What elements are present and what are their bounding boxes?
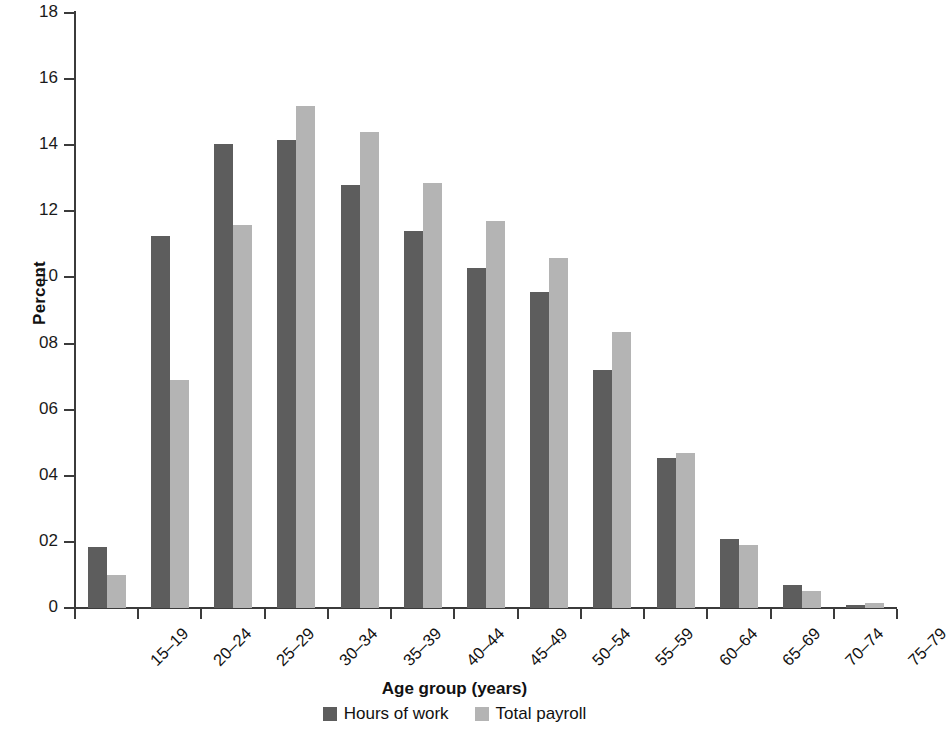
bar-group <box>467 13 505 608</box>
x-tick <box>200 609 202 619</box>
bar-hours-of-work <box>341 185 360 608</box>
y-tick-label: 02 <box>14 531 58 551</box>
bar-group <box>341 13 379 608</box>
bar-total-payroll <box>865 603 884 608</box>
legend-swatch-icon <box>475 707 489 721</box>
x-tick-label: 20–24 <box>209 624 255 670</box>
y-tick-16 <box>64 78 75 80</box>
legend-swatch-icon <box>323 707 337 721</box>
x-tick <box>517 609 519 619</box>
bar-group <box>657 13 695 608</box>
y-tick-12 <box>64 210 75 212</box>
bar-total-payroll <box>486 221 505 608</box>
y-tick-18 <box>64 12 75 14</box>
y-tick-label: 0 <box>14 597 58 617</box>
y-tick-label: 10 <box>14 266 58 286</box>
x-tick-label: 60–64 <box>715 624 761 670</box>
y-tick-08 <box>64 343 75 345</box>
x-tick <box>896 609 898 619</box>
x-tick <box>706 609 708 619</box>
y-tick-label: 16 <box>14 68 58 88</box>
bar-total-payroll <box>676 453 695 608</box>
bar-hours-of-work <box>467 268 486 608</box>
x-tick <box>833 609 835 619</box>
x-tick-label: 70–74 <box>842 624 888 670</box>
bar-group <box>783 13 821 608</box>
legend-item: Total payroll <box>475 704 587 724</box>
x-axis-title: Age group (years) <box>0 679 909 699</box>
bar-hours-of-work <box>846 605 865 608</box>
x-tick <box>580 609 582 619</box>
y-tick-06 <box>64 409 75 411</box>
bar-total-payroll <box>107 575 126 608</box>
x-tick <box>643 609 645 619</box>
legend-label: Hours of work <box>344 704 449 724</box>
bar-hours-of-work <box>593 370 612 608</box>
y-tick-label: 06 <box>14 399 58 419</box>
bar-hours-of-work <box>783 585 802 608</box>
x-tick-label: 40–44 <box>462 624 508 670</box>
bar-total-payroll <box>802 591 821 608</box>
x-tick <box>264 609 266 619</box>
legend-label: Total payroll <box>496 704 587 724</box>
y-tick-label: 14 <box>14 134 58 154</box>
bar-group <box>720 13 758 608</box>
bar-hours-of-work <box>530 292 549 608</box>
x-tick <box>74 609 76 619</box>
x-tick-label: 50–54 <box>589 624 635 670</box>
bar-group <box>530 13 568 608</box>
y-tick-label: 08 <box>14 333 58 353</box>
y-tick-14 <box>64 144 75 146</box>
y-tick-10 <box>64 276 75 278</box>
bar-group <box>88 13 126 608</box>
chart-legend: Hours of workTotal payroll <box>0 704 909 724</box>
bar-group <box>151 13 189 608</box>
bar-hours-of-work <box>657 458 676 608</box>
x-tick-label: 30–34 <box>336 624 382 670</box>
x-tick-label: 45–49 <box>525 624 571 670</box>
x-tick <box>453 609 455 619</box>
bar-total-payroll <box>296 106 315 608</box>
bar-group <box>214 13 252 608</box>
bar-hours-of-work <box>88 547 107 608</box>
y-tick-label: 18 <box>14 2 58 22</box>
x-tick <box>137 609 139 619</box>
y-tick-04 <box>64 475 75 477</box>
bar-group <box>277 13 315 608</box>
bar-hours-of-work <box>277 140 296 608</box>
x-tick <box>770 609 772 619</box>
bar-group <box>846 13 884 608</box>
x-tick-label: 15–19 <box>146 624 192 670</box>
bar-hours-of-work <box>151 236 170 608</box>
bar-total-payroll <box>549 258 568 608</box>
bar-total-payroll <box>423 183 442 608</box>
y-tick-02 <box>64 541 75 543</box>
legend-item: Hours of work <box>323 704 449 724</box>
plot-area <box>75 13 897 608</box>
bar-group <box>404 13 442 608</box>
bar-total-payroll <box>170 380 189 608</box>
bar-total-payroll <box>612 332 631 608</box>
x-tick-label: 55–59 <box>652 624 698 670</box>
bar-hours-of-work <box>404 231 423 608</box>
x-tick-label: 35–39 <box>399 624 445 670</box>
y-tick-label: 04 <box>14 465 58 485</box>
x-tick-label: 65–69 <box>778 624 824 670</box>
bar-hours-of-work <box>720 539 739 608</box>
bar-total-payroll <box>739 545 758 608</box>
bar-total-payroll <box>360 132 379 608</box>
x-tick-label: 25–29 <box>273 624 319 670</box>
x-tick <box>327 609 329 619</box>
bar-total-payroll <box>233 225 252 608</box>
y-tick-label: 12 <box>14 200 58 220</box>
bar-hours-of-work <box>214 144 233 608</box>
bar-group <box>593 13 631 608</box>
x-tick <box>390 609 392 619</box>
x-tick-label: 75–79 <box>905 624 950 670</box>
